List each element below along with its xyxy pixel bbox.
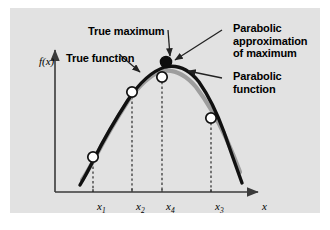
x-tick-label-x3: x3 — [215, 200, 224, 215]
x-tick-label-x1: x1 — [97, 200, 106, 215]
annotation-parabolic-function-line1: Parabolic — [233, 70, 282, 83]
annotation-parabolic-approximation-line2: approximation — [233, 35, 308, 48]
x-tick-label-x2: x2 — [136, 200, 145, 215]
figure-page: True maximum True function Parabolic app… — [0, 0, 330, 230]
x-tick-label-x1-sub: 1 — [102, 206, 106, 215]
marker-x3 — [206, 113, 216, 123]
annotation-parabolic-approximation: Parabolic approximation of maximum — [233, 22, 308, 60]
x-axis-label: x — [262, 200, 267, 212]
marker-x2 — [127, 87, 137, 97]
marker-true-maximum — [160, 56, 171, 67]
x-tick-label-x4: x4 — [166, 200, 175, 215]
y-axis-label: f(x) — [39, 55, 54, 67]
annotation-parabolic-approximation-line3: of maximum — [233, 47, 308, 60]
annotation-parabolic-function: Parabolic function — [233, 70, 282, 95]
annotation-true-maximum: True maximum — [88, 25, 164, 38]
x-tick-label-x2-sub: 2 — [141, 206, 145, 215]
annotation-parabolic-approximation-line1: Parabolic — [233, 22, 308, 35]
marker-x4 — [157, 72, 167, 82]
annotation-parabolic-function-line2: function — [233, 83, 282, 96]
x-tick-label-x4-sub: 4 — [171, 206, 175, 215]
x-tick-label-x3-sub: 3 — [220, 206, 224, 215]
figure-panel: True maximum True function Parabolic app… — [10, 8, 320, 213]
annotation-true-function: True function — [66, 52, 134, 65]
marker-x1 — [88, 152, 98, 162]
